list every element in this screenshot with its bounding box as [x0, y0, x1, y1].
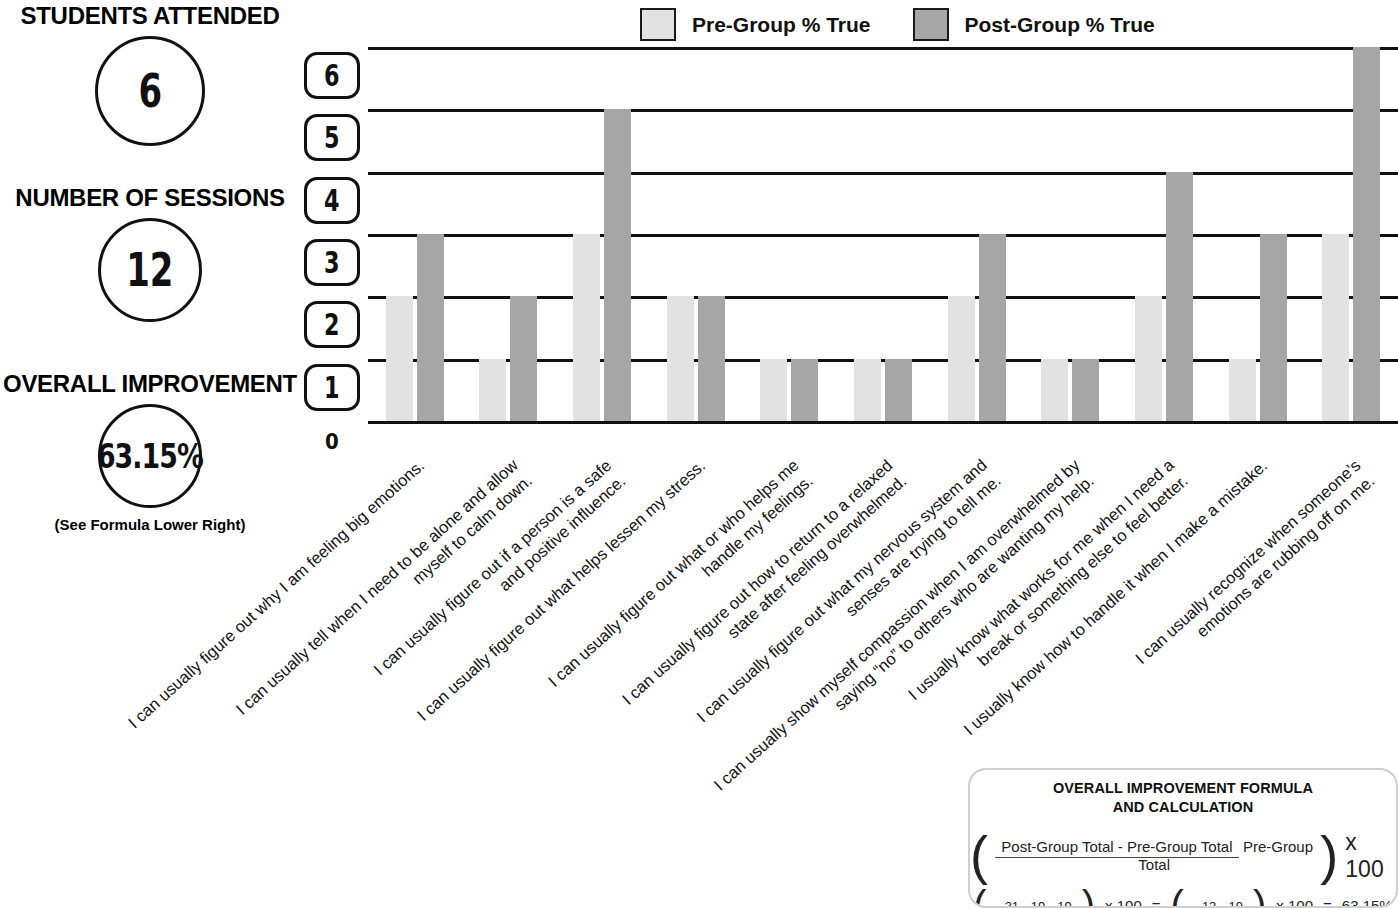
bar-group-3	[555, 50, 649, 421]
overall-improvement-formula-box: OVERALL IMPROVEMENT FORMULA AND CALCULAT…	[968, 768, 1398, 908]
formula-paren-close: )	[1320, 839, 1338, 872]
bar-pre-group-8	[1041, 359, 1068, 421]
bar-pre-group-10	[1229, 359, 1256, 421]
calc-result-numerator: 12	[1194, 899, 1224, 908]
y-axis-tick-label-1: 1	[324, 372, 340, 403]
stat-number-of-sessions-value: 12	[126, 247, 173, 293]
bar-post-group-8	[1072, 359, 1099, 421]
legend-label-pre-group: Pre-Group % True	[692, 13, 871, 37]
bar-group-10	[1211, 50, 1305, 421]
x-axis-category-labels: I can usually figure out why I am feelin…	[0, 455, 1398, 785]
bar-group-9	[1117, 50, 1211, 421]
chart-baseline	[368, 421, 1398, 424]
bar-pre-group-4	[667, 296, 694, 421]
stat-students-attended-circle: 6	[95, 36, 205, 146]
formula-title-line1: OVERALL IMPROVEMENT FORMULA	[1053, 780, 1313, 796]
calc-denominator: 19	[1057, 896, 1071, 908]
calc-numerator: 31 - 19	[997, 899, 1053, 908]
calc-result-paren-close: )	[1253, 893, 1266, 908]
bar-group-8	[1023, 50, 1117, 421]
bar-post-group-5	[791, 359, 818, 421]
bar-group-4	[649, 50, 743, 421]
legend-label-post-group: Post-Group % True	[965, 13, 1155, 37]
y-axis-tick-6: 6	[304, 52, 360, 99]
legend-swatch-post-group	[913, 8, 949, 41]
legend-swatch-pre-group	[640, 8, 676, 41]
y-axis-tick-label-0: 0	[304, 429, 360, 454]
y-axis-tick-label-3: 3	[324, 247, 340, 278]
bar-post-group-3	[604, 109, 631, 421]
bar-post-group-10	[1260, 234, 1287, 421]
bar-pre-group-3	[573, 234, 600, 421]
chart-bar-groups	[368, 50, 1398, 421]
bar-group-5	[743, 50, 837, 421]
calc-multiplier: x 100	[1105, 897, 1142, 908]
calc-result-fraction: 12 19	[1194, 897, 1243, 908]
stat-students-attended-value: 6	[138, 68, 162, 114]
bar-post-group-4	[698, 296, 725, 421]
formula-multiplier: x 100	[1345, 829, 1396, 883]
stat-students-attended: STUDENTS ATTENDED 6	[0, 4, 300, 146]
stat-number-of-sessions-title: NUMBER OF SESSIONS	[0, 186, 300, 210]
bar-pre-group-5	[760, 359, 787, 421]
bar-pre-group-7	[948, 296, 975, 421]
chart-plot-area	[368, 50, 1398, 424]
bar-group-2	[462, 50, 556, 421]
bar-chart: 6543210	[300, 50, 1398, 450]
y-axis-tick-4: 4	[304, 177, 360, 224]
bar-post-group-2	[510, 296, 537, 421]
calc-result-paren-open: (	[1171, 893, 1184, 908]
bar-pre-group-11	[1322, 234, 1349, 421]
bar-group-6	[836, 50, 930, 421]
y-axis-tick-1: 1	[304, 364, 360, 411]
y-axis-tick-label-2: 2	[324, 309, 340, 340]
y-axis-tick-5: 5	[304, 114, 360, 161]
bar-post-group-1	[417, 234, 444, 421]
bar-post-group-7	[979, 234, 1006, 421]
stat-overall-improvement-title: OVERALL IMPROVEMENT	[0, 372, 300, 396]
legend-item-pre-group: Pre-Group % True	[640, 8, 871, 41]
formula-title: OVERALL IMPROVEMENT FORMULA AND CALCULAT…	[970, 779, 1396, 817]
calc-fraction: 31 - 19 19	[997, 897, 1072, 908]
formula-fraction: Post-Group Total - Pre-Group Total Pre-G…	[995, 838, 1313, 874]
formula-title-line2: AND CALCULATION	[1113, 799, 1254, 815]
bar-pre-group-1	[386, 296, 413, 421]
bar-group-11	[1304, 50, 1398, 421]
calc-result-multiplier: x 100	[1276, 897, 1313, 908]
y-axis-tick-3: 3	[304, 239, 360, 286]
legend-item-post-group: Post-Group % True	[913, 8, 1155, 41]
formula-numerator: Post-Group Total - Pre-Group Total	[995, 838, 1238, 858]
y-axis-tick-label-4: 4	[324, 185, 340, 216]
stat-number-of-sessions: NUMBER OF SESSIONS 12	[0, 186, 300, 322]
calc-paren-open: (	[973, 893, 986, 908]
calc-paren-close: )	[1082, 893, 1095, 908]
stat-students-attended-title: STUDENTS ATTENDED	[0, 4, 300, 28]
bar-post-group-6	[885, 359, 912, 421]
infographic-page: STUDENTS ATTENDED 6 NUMBER OF SESSIONS 1…	[0, 0, 1398, 908]
calc-result-denominator: 19	[1229, 896, 1243, 908]
y-axis-labels: 6543210	[300, 50, 366, 450]
bar-group-1	[368, 50, 462, 421]
calc-equals: =	[1152, 897, 1161, 908]
calc-result-value: 63.15%	[1342, 897, 1393, 908]
formula-calculation: ( 31 - 19 19 ) x 100 = ( 12 19 ) x 100 =…	[970, 893, 1396, 908]
bar-pre-group-2	[479, 359, 506, 421]
bar-post-group-11	[1353, 47, 1380, 421]
calc-result-equals: =	[1323, 897, 1332, 908]
formula-paren-open: (	[970, 839, 988, 872]
bar-pre-group-6	[854, 359, 881, 421]
bar-pre-group-9	[1135, 296, 1162, 421]
bar-post-group-9	[1166, 172, 1193, 421]
y-axis-tick-label-6: 6	[324, 60, 340, 91]
x-axis-label-11-line-2: emotions are rubbing off on me.	[1145, 471, 1379, 685]
formula-expression: ( Post-Group Total - Pre-Group Total Pre…	[970, 829, 1396, 883]
y-axis-tick-2: 2	[304, 301, 360, 348]
y-axis-tick-label-5: 5	[324, 122, 340, 153]
bar-group-7	[930, 50, 1024, 421]
chart-legend: Pre-Group % True Post-Group % True	[640, 8, 1155, 41]
stat-number-of-sessions-circle: 12	[98, 218, 202, 322]
